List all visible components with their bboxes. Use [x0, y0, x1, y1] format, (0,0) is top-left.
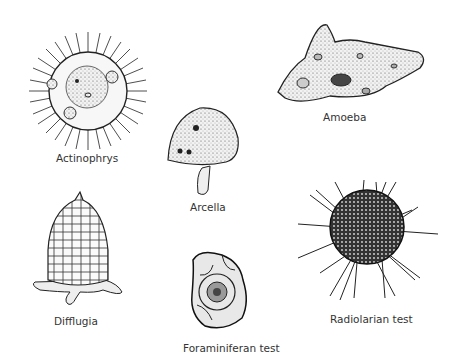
actinophrys-drawing — [29, 32, 147, 150]
amoeba-drawing — [278, 25, 424, 101]
label-amoeba: Amoeba — [323, 111, 366, 123]
radiolarian-test-drawing — [298, 180, 438, 300]
label-foraminiferan-test: Foraminiferan test — [183, 342, 280, 354]
arcella-drawing — [168, 108, 238, 195]
difflugia-drawing — [33, 192, 122, 304]
label-arcella: Arcella — [190, 201, 226, 213]
protozoa-illustration: Actinophrys Arcella Amoeba Difflugia For… — [0, 0, 454, 363]
label-radiolarian-test: Radiolarian test — [330, 313, 413, 325]
label-actinophrys: Actinophrys — [56, 152, 118, 164]
illustration-drawing — [0, 0, 454, 363]
label-difflugia: Difflugia — [54, 315, 98, 327]
foraminiferan-test-drawing — [192, 252, 247, 327]
